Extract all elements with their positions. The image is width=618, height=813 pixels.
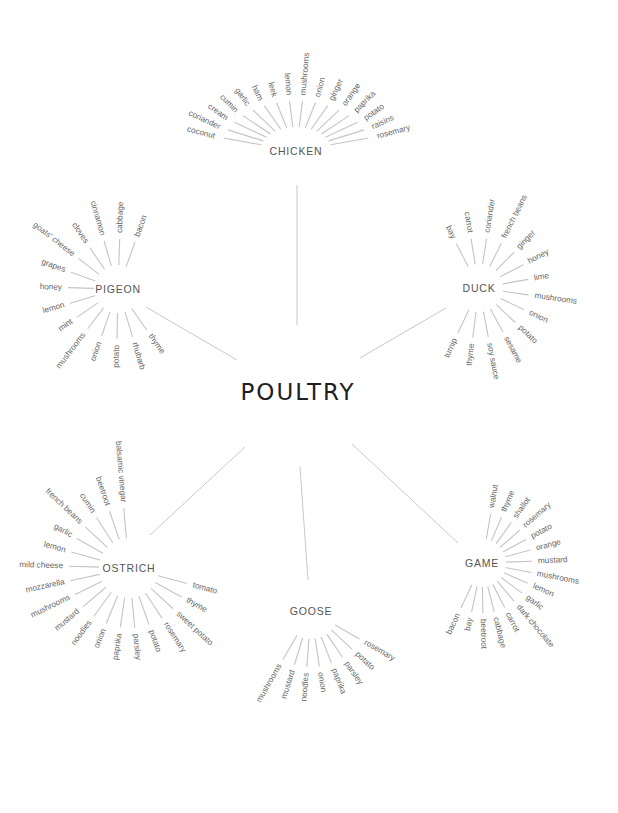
ingredient-label: lemon: [42, 300, 66, 315]
spoke-line: [331, 138, 369, 145]
spoke-line: [253, 110, 275, 131]
spoke-line: [321, 116, 349, 134]
spoke-line: [126, 242, 135, 266]
ingredient-label: sesame: [502, 335, 524, 365]
spoke-line: [500, 265, 523, 277]
ingredient-label: thyme: [185, 596, 209, 615]
hub-label: PIGEON: [95, 283, 141, 295]
ingredient-label: cabbage: [491, 616, 507, 649]
spoke-line: [488, 586, 494, 611]
spoke-line: [158, 576, 187, 584]
spoke-line: [75, 581, 102, 594]
ingredient-label: parsley: [131, 633, 143, 661]
ingredient-label: bacon: [133, 213, 149, 237]
ingredient-label: onion: [528, 308, 550, 325]
spoke-line: [490, 243, 502, 266]
ingredient-label: beetroot: [94, 476, 112, 508]
ingredient-label: noodles: [299, 672, 310, 701]
spoke-line: [506, 561, 532, 562]
spoke-line: [503, 291, 529, 295]
spoke-line: [228, 130, 263, 141]
spoke-line: [78, 258, 99, 274]
spoke-line: [496, 305, 515, 323]
ingredient-label: paprika: [330, 667, 348, 696]
ingredient-label: rhubarb: [130, 341, 147, 371]
ingredient-label: ginger: [515, 228, 538, 251]
ingredient-label: ham: [250, 84, 265, 102]
spoke-line: [139, 596, 149, 624]
ingredient-label: walnut: [487, 483, 500, 510]
ingredient-label: french beans: [500, 193, 529, 239]
spoke-line: [283, 635, 297, 659]
ingredient-label: dark chocolate: [515, 603, 556, 650]
spoke-line: [490, 309, 502, 332]
spoke-line: [317, 110, 339, 131]
ingredient-label: paprika: [111, 632, 124, 660]
ingredient-label: soy sauce: [485, 342, 501, 380]
spoke-line: [456, 243, 468, 266]
ingredient-label: garlic: [52, 522, 73, 539]
spoke-line: [311, 106, 327, 130]
spoke-line: [69, 566, 99, 567]
ingredient-label: tomato: [192, 580, 219, 595]
spoke-line: [104, 241, 111, 266]
spoke-line: [155, 582, 181, 596]
ingredient-label: bay: [463, 616, 475, 632]
spoke-line: [224, 138, 262, 145]
spoke-line: [88, 308, 104, 329]
spoke-line: [77, 539, 103, 554]
connector-line: [150, 447, 245, 535]
ingredient-label: cabbage: [115, 201, 125, 233]
ingredient-label: mushrooms: [299, 52, 312, 95]
connector-line: [352, 444, 458, 543]
spoke-line: [117, 313, 118, 339]
ingredient-label: onion: [88, 340, 103, 362]
ingredient-label: lemon: [283, 73, 294, 96]
ingredient-label: mild cheese: [19, 560, 63, 570]
spoke-line: [70, 296, 95, 303]
spoke-line: [505, 550, 530, 557]
spoke-line: [299, 101, 302, 127]
spoke-line: [90, 248, 105, 269]
spoke-line: [503, 279, 529, 283]
ingredient-label: potato: [529, 522, 554, 541]
spoke-line: [132, 309, 147, 330]
ingredient-label: cloves: [70, 221, 91, 245]
ingredient-label: thyme: [464, 343, 476, 367]
hub-label: DUCK: [463, 282, 496, 294]
ingredient-label: onion: [92, 627, 108, 649]
spoke-line: [315, 639, 319, 667]
spoke-line: [458, 310, 469, 334]
ingredient-label: potato: [147, 629, 163, 654]
ingredient-label: bacon: [445, 611, 463, 635]
spoke-line: [329, 130, 364, 141]
ingredient-label: mushrooms: [534, 291, 578, 306]
spoke-line: [110, 511, 120, 539]
spoke-line: [120, 598, 124, 628]
spoke-line: [289, 101, 292, 127]
ingredient-label: mustard: [538, 555, 568, 565]
ingredient-label: thyme: [147, 332, 167, 356]
ingredient-label: honey: [526, 247, 551, 266]
hub-goose: GOOSEmushroomsmustardnoodlesonionpaprika…: [254, 605, 397, 704]
ingredient-label: carrot: [504, 611, 522, 634]
spoke-line: [325, 122, 357, 137]
ingredient-label: cinnamon: [89, 200, 108, 237]
ingredient-label: orange: [535, 537, 562, 552]
spoke-line: [473, 312, 476, 338]
hub-game: GAMEwalnutthymeshallotrosemarypotatooran…: [445, 483, 580, 650]
spoke-line: [77, 303, 98, 318]
spoke-line: [71, 552, 100, 560]
spoke-line: [471, 239, 475, 265]
spoke-line: [277, 103, 287, 128]
spoke-line: [106, 596, 117, 624]
spoke-line: [235, 122, 267, 137]
spoke-line: [305, 103, 315, 128]
ingredient-label: bay: [444, 224, 458, 241]
spoke-line: [125, 312, 133, 337]
hub-label: OSTRICH: [103, 562, 156, 574]
hub-label: GOOSE: [290, 605, 333, 617]
spoke-line: [486, 514, 491, 540]
spoke-line: [483, 312, 488, 338]
diagram-title: POULTRY: [240, 379, 355, 405]
